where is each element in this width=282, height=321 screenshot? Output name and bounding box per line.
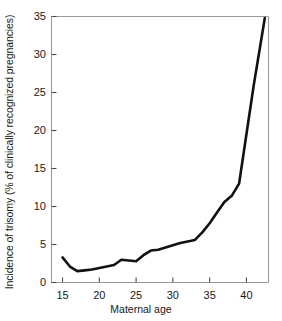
axis-tick-marks xyxy=(52,17,247,283)
data-series-group xyxy=(63,18,265,271)
data-line-incidence-of-trisomy xyxy=(63,18,265,271)
plot-area xyxy=(0,0,282,321)
chart-figure: Incidence of trisomy (% of clinically re… xyxy=(0,0,282,321)
axes-frame xyxy=(52,17,269,283)
x-axis-title: Maternal age xyxy=(0,303,282,315)
